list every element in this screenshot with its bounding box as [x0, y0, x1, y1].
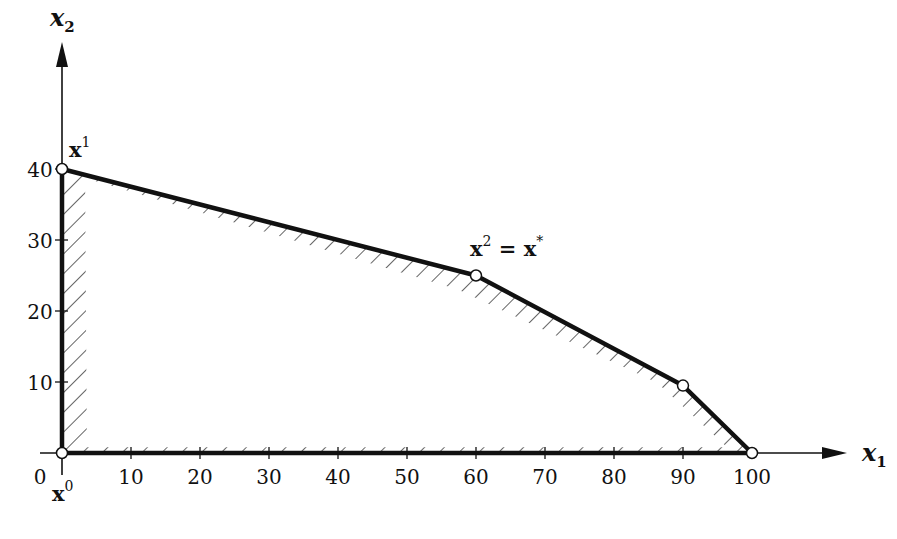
x-tick-label: 100	[733, 465, 771, 489]
y-tick-label: 40	[27, 158, 52, 182]
vertex-point-icon	[57, 164, 68, 175]
vertex-point-icon	[678, 380, 689, 391]
y-axis-arrow-icon	[56, 42, 68, 67]
x-tick-label: 30	[256, 465, 281, 489]
x-axis-arrow-icon	[822, 447, 847, 459]
x-tick-label: 90	[670, 465, 695, 489]
y-tick-label: 10	[27, 371, 52, 395]
x-tick-label: 60	[463, 465, 488, 489]
x-axis-label: x1	[861, 438, 887, 471]
x-tick-label: 50	[394, 465, 419, 489]
chart-canvas: x1x2 102030405060708090100102030400 x0x1…	[0, 0, 897, 539]
vertex-point-icon	[747, 448, 758, 459]
y-axis-label: x2	[49, 3, 75, 36]
origin-label: 0	[34, 465, 47, 489]
vertex-point-icon	[57, 448, 68, 459]
x-tick-label: 80	[601, 465, 626, 489]
y-tick-label: 30	[27, 229, 52, 253]
x-tick-label: 20	[187, 465, 212, 489]
point-label-x0: x0	[52, 478, 73, 506]
vertex-point-icon	[471, 270, 482, 281]
y-tick-label: 20	[27, 300, 52, 324]
point-label-x1: x1	[69, 134, 90, 162]
x-tick-label: 10	[118, 465, 143, 489]
feasible-region-chart: x1x2 102030405060708090100102030400 x0x1…	[0, 0, 897, 539]
x-tick-label: 40	[325, 465, 350, 489]
x-tick-label: 70	[532, 465, 557, 489]
point-label-x2: x2 = x*	[470, 233, 543, 261]
